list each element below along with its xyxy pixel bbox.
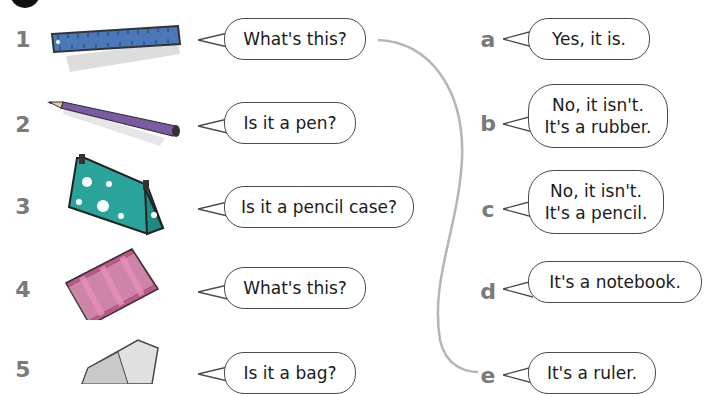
question-bubble-5: Is it a bag?	[224, 352, 356, 394]
question-bubble-3: Is it a pencil case?	[224, 186, 414, 228]
answer-bubble-e: It's a ruler.	[528, 352, 656, 394]
ruler-icon	[48, 22, 188, 82]
answer-letter-b: b	[478, 111, 498, 136]
answer-letter-e: e	[478, 363, 498, 388]
answer-bubble-a: Yes, it is.	[528, 18, 650, 60]
rubber-icon	[80, 330, 165, 384]
answer-bubble-d: It's a notebook.	[528, 261, 702, 303]
question-number-4: 4	[13, 277, 33, 302]
question-number-2: 2	[13, 112, 33, 137]
pencil-case-icon	[65, 150, 165, 240]
answer-letter-c: c	[478, 197, 498, 222]
pencil-icon	[45, 98, 185, 148]
notebook-icon	[62, 245, 167, 320]
question-bubble-2: Is it a pen?	[224, 102, 356, 144]
question-bubble-1: What's this?	[224, 18, 366, 60]
answer-letter-a: a	[478, 27, 498, 52]
question-number-5: 5	[13, 357, 33, 382]
answer-letter-d: d	[478, 279, 498, 304]
answer-bubble-b: No, it isn't. It's a rubber.	[528, 84, 668, 148]
question-number-3: 3	[13, 194, 33, 219]
answer-bubble-c: No, it isn't. It's a pencil.	[528, 170, 664, 234]
question-number-1: 1	[13, 27, 33, 52]
question-bubble-4: What's this?	[224, 267, 366, 309]
